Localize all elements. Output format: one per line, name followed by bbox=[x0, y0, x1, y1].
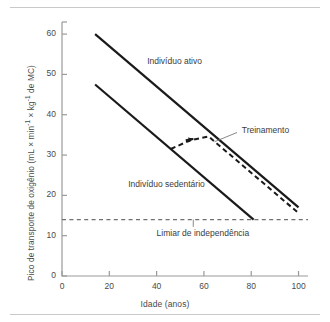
x-axis-tick-label: 60 bbox=[188, 281, 220, 291]
y-axis-title: Pico de transporte de oxigênio (mL × min… bbox=[26, 65, 36, 281]
y-axis-tick-label: 30 bbox=[30, 149, 56, 159]
x-axis-title: Idade (anos) bbox=[0, 299, 330, 309]
x-axis-tick-label: 80 bbox=[235, 281, 267, 291]
training-leader bbox=[215, 132, 237, 141]
y-axis-tick-label: 60 bbox=[30, 28, 56, 38]
x-axis-tick-label: 100 bbox=[283, 281, 315, 291]
y-axis-tick-label: 0 bbox=[30, 270, 56, 280]
threshold-label: Limiar de independência bbox=[157, 228, 250, 238]
x-axis-tick-label: 20 bbox=[93, 281, 125, 291]
training-arrow-icon bbox=[186, 139, 194, 140]
series-line bbox=[171, 137, 299, 214]
x-axis-tick-label: 0 bbox=[46, 281, 78, 291]
series-line bbox=[95, 84, 253, 219]
y-axis-title-exp2: -1 bbox=[24, 95, 31, 101]
y-axis-tick-label: 40 bbox=[30, 109, 56, 119]
active-label: Indivíduo ativo bbox=[147, 56, 202, 66]
y-axis-title-exp1: -1 bbox=[24, 120, 31, 126]
y-axis-tick-label: 20 bbox=[30, 189, 56, 199]
chart-figure: Idade (anos) Pico de transporte de oxigê… bbox=[0, 0, 330, 322]
training-label: Treinamento bbox=[242, 125, 289, 135]
sedentary-label: Indivíduo sedentário bbox=[128, 179, 205, 189]
y-axis-tick-label: 10 bbox=[30, 230, 56, 240]
y-axis-tick-label: 50 bbox=[30, 68, 56, 78]
x-axis-tick-label: 40 bbox=[141, 281, 173, 291]
